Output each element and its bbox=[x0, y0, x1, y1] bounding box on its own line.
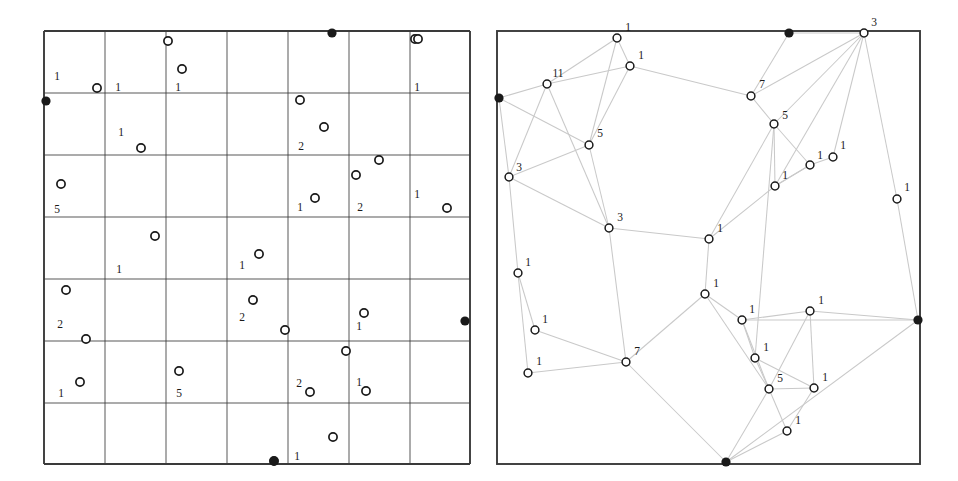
graph-edge bbox=[897, 199, 918, 320]
graph-node-circle[interactable] bbox=[605, 224, 613, 232]
graph-node-circle[interactable] bbox=[531, 326, 539, 334]
graph-node-weight-label: 1 bbox=[782, 169, 788, 181]
graph-edge bbox=[775, 165, 810, 186]
open-circle-marker[interactable] bbox=[296, 96, 304, 104]
graph-edge bbox=[751, 96, 774, 124]
graph-edge bbox=[726, 320, 918, 462]
graph-node-circle[interactable] bbox=[701, 290, 709, 298]
open-circle-marker[interactable] bbox=[151, 232, 159, 240]
open-circle-marker[interactable] bbox=[443, 204, 451, 212]
graph-edge bbox=[589, 145, 609, 228]
graph-node-weight-label: 1 bbox=[542, 313, 548, 325]
open-circle-marker[interactable] bbox=[164, 37, 172, 45]
graph-edge bbox=[499, 98, 589, 145]
grid-point-label: 1 bbox=[414, 81, 420, 93]
graph-node-circle[interactable] bbox=[514, 269, 522, 277]
graph-node-weight-label: 7 bbox=[634, 345, 640, 357]
graph-node-circle[interactable] bbox=[613, 34, 621, 42]
open-circle-marker[interactable] bbox=[360, 309, 368, 317]
open-circle-marker[interactable] bbox=[178, 65, 186, 73]
open-circle-marker[interactable] bbox=[76, 378, 84, 386]
open-circle-marker[interactable] bbox=[375, 156, 383, 164]
graph-node-weight-label: 3 bbox=[871, 16, 877, 28]
open-circle-marker[interactable] bbox=[249, 296, 257, 304]
graph-node-circle[interactable] bbox=[751, 354, 759, 362]
grid-point-label: 1 bbox=[115, 81, 121, 93]
graph-edge bbox=[499, 98, 509, 177]
filled-boundary-dot[interactable] bbox=[269, 456, 278, 465]
open-circle-marker[interactable] bbox=[329, 433, 337, 441]
graph-node-circle[interactable] bbox=[738, 316, 746, 324]
graph-node-circle[interactable] bbox=[806, 307, 814, 315]
open-circle-marker[interactable] bbox=[93, 84, 101, 92]
graph-node-weight-label: 1 bbox=[717, 222, 723, 234]
grid-lines bbox=[44, 31, 470, 464]
graph-node-circle[interactable] bbox=[829, 153, 837, 161]
filled-boundary-dot[interactable] bbox=[784, 28, 793, 37]
graph-node-weight-label: 1 bbox=[536, 355, 542, 367]
graph-node-circle[interactable] bbox=[505, 173, 513, 181]
grid-point-label: 1 bbox=[239, 259, 245, 271]
graph-node-circle[interactable] bbox=[705, 235, 713, 243]
graph-node-circle[interactable] bbox=[771, 182, 779, 190]
graph-edge bbox=[609, 228, 709, 239]
open-circle-marker[interactable] bbox=[175, 367, 183, 375]
open-circle-marker[interactable] bbox=[311, 194, 319, 202]
open-circle-marker[interactable] bbox=[137, 144, 145, 152]
graph-edge bbox=[609, 228, 626, 362]
grid-points: 11111251211122115211 bbox=[54, 35, 451, 465]
graph-node-circle[interactable] bbox=[783, 427, 791, 435]
filled-boundary-dot[interactable] bbox=[913, 315, 922, 324]
graph-node-circle[interactable] bbox=[543, 80, 551, 88]
graph-node-weight-label: 1 bbox=[795, 414, 801, 426]
open-circle-marker[interactable] bbox=[320, 123, 328, 131]
graph-node-circle[interactable] bbox=[524, 369, 532, 377]
graph-node-circle[interactable] bbox=[747, 92, 755, 100]
grid-point-label: 1 bbox=[118, 126, 124, 138]
graph-node-weight-label: 1 bbox=[525, 256, 531, 268]
graph-edge bbox=[769, 311, 810, 389]
graph-node-circle[interactable] bbox=[622, 358, 630, 366]
open-circle-marker[interactable] bbox=[362, 387, 370, 395]
grid-point-label: 1 bbox=[294, 450, 300, 462]
graph-node-circle[interactable] bbox=[585, 141, 593, 149]
graph-node-circle[interactable] bbox=[765, 385, 773, 393]
open-circle-marker[interactable] bbox=[342, 347, 350, 355]
grid-point-label: 1 bbox=[297, 201, 303, 213]
graph-node-weight-label: 1 bbox=[638, 49, 644, 61]
open-circle-marker[interactable] bbox=[306, 388, 314, 396]
graph-node-circle[interactable] bbox=[810, 384, 818, 392]
graph-edge bbox=[833, 33, 864, 157]
graph-node-circle[interactable] bbox=[626, 62, 634, 70]
open-circle-marker[interactable] bbox=[414, 35, 422, 43]
filled-boundary-dot[interactable] bbox=[327, 28, 336, 37]
graph-edge bbox=[705, 239, 709, 294]
open-circle-marker[interactable] bbox=[57, 180, 65, 188]
grid-point-label: 2 bbox=[298, 140, 304, 152]
grid-point-label: 1 bbox=[356, 376, 362, 388]
filled-boundary-dot[interactable] bbox=[494, 93, 503, 102]
grid-point-label: 1 bbox=[356, 320, 362, 332]
graph-edge bbox=[769, 389, 787, 431]
graph-node-circle[interactable] bbox=[806, 161, 814, 169]
graph-node-circle[interactable] bbox=[893, 195, 901, 203]
graph-edge bbox=[509, 177, 518, 273]
filled-boundary-dot[interactable] bbox=[460, 316, 469, 325]
graph-edge bbox=[751, 33, 789, 96]
graph-node-weight-label: 3 bbox=[617, 211, 623, 223]
open-circle-marker[interactable] bbox=[352, 171, 360, 179]
graph-edge bbox=[810, 311, 814, 388]
open-circle-marker[interactable] bbox=[82, 335, 90, 343]
filled-boundary-dot[interactable] bbox=[721, 457, 730, 466]
graph-node-circle[interactable] bbox=[860, 29, 868, 37]
open-circle-marker[interactable] bbox=[281, 326, 289, 334]
graph-node-circle[interactable] bbox=[770, 120, 778, 128]
graph-edge bbox=[769, 388, 814, 389]
filled-boundary-dot[interactable] bbox=[41, 96, 50, 105]
open-circle-marker[interactable] bbox=[62, 286, 70, 294]
open-circle-marker[interactable] bbox=[255, 250, 263, 258]
graph-edge bbox=[755, 358, 814, 388]
grid-point-label: 1 bbox=[54, 70, 60, 82]
graph-edge bbox=[589, 66, 630, 145]
grid-point-label: 2 bbox=[239, 311, 245, 323]
